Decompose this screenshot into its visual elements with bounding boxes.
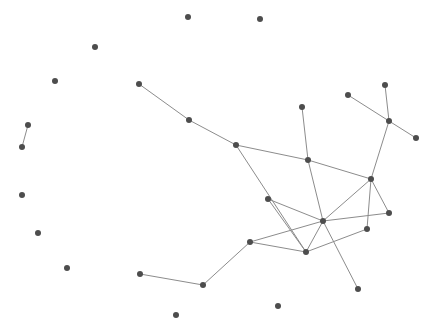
- graph-node: [35, 230, 41, 236]
- graph-edge: [323, 179, 371, 221]
- graph-node: [265, 196, 271, 202]
- graph-node: [257, 16, 263, 22]
- graph-edge: [371, 121, 389, 179]
- graph-node: [136, 81, 142, 87]
- graph-node: [200, 282, 206, 288]
- graph-edge: [140, 274, 203, 285]
- graph-edge: [306, 229, 367, 252]
- graph-node: [413, 135, 419, 141]
- graph-node: [19, 192, 25, 198]
- graph-node: [364, 226, 370, 232]
- graph-node: [320, 218, 326, 224]
- graph-node: [382, 82, 388, 88]
- graph-edge: [308, 160, 371, 179]
- graph-node: [386, 210, 392, 216]
- graph-node: [64, 265, 70, 271]
- graph-node: [299, 104, 305, 110]
- graph-edges: [22, 84, 416, 289]
- graph-edge: [385, 85, 389, 121]
- graph-node: [275, 303, 281, 309]
- graph-node: [305, 157, 311, 163]
- graph-edge: [22, 125, 28, 147]
- graph-node: [173, 312, 179, 318]
- graph-node: [185, 14, 191, 20]
- graph-node: [233, 142, 239, 148]
- graph-edge: [367, 179, 371, 229]
- graph-node: [247, 239, 253, 245]
- graph-node: [52, 78, 58, 84]
- graph-edge: [139, 84, 189, 120]
- graph-edge: [302, 107, 308, 160]
- graph-node: [368, 176, 374, 182]
- graph-node: [303, 249, 309, 255]
- graph-edge: [236, 145, 308, 160]
- graph-edge: [371, 179, 389, 213]
- graph-node: [345, 92, 351, 98]
- network-graph: [0, 0, 438, 330]
- graph-node: [137, 271, 143, 277]
- graph-edge: [189, 120, 236, 145]
- graph-edge: [323, 221, 358, 289]
- graph-node: [186, 117, 192, 123]
- graph-edge: [348, 95, 389, 121]
- graph-edge: [250, 242, 306, 252]
- graph-node: [355, 286, 361, 292]
- graph-edge: [203, 242, 250, 285]
- graph-edge: [389, 121, 416, 138]
- graph-nodes: [19, 14, 419, 318]
- graph-edge: [308, 160, 323, 221]
- graph-node: [25, 122, 31, 128]
- graph-node: [19, 144, 25, 150]
- graph-edge: [323, 213, 389, 221]
- graph-node: [386, 118, 392, 124]
- graph-node: [92, 44, 98, 50]
